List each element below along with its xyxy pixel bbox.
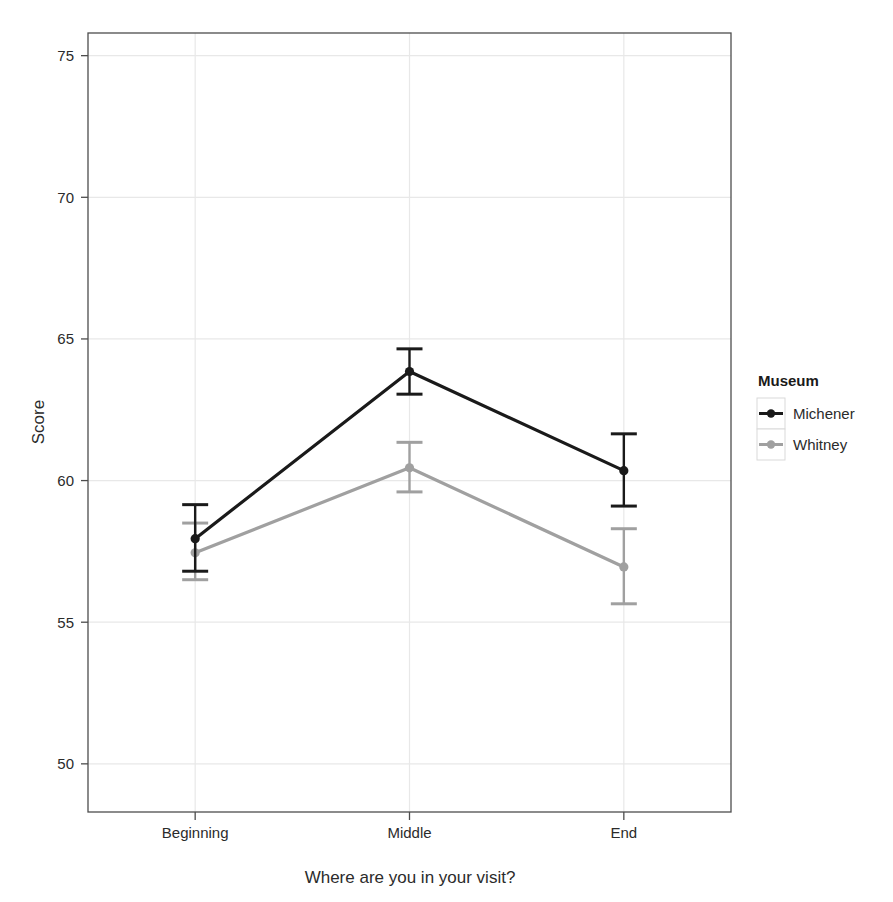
- y-axis: 505560657075: [57, 47, 88, 772]
- legend-items: MichenerWhitney: [757, 398, 855, 460]
- x-tick-label: Beginning: [162, 824, 229, 841]
- legend-title: Museum: [758, 372, 819, 389]
- x-tick-label: End: [610, 824, 637, 841]
- y-axis-title: Score: [29, 400, 48, 444]
- legend: Museum MichenerWhitney: [757, 372, 855, 460]
- legend-key-marker: [767, 440, 775, 448]
- x-axis-title: Where are you in your visit?: [305, 868, 516, 887]
- data-point-marker: [619, 466, 628, 475]
- legend-item-label: Michener: [793, 405, 855, 422]
- legend-item-label: Whitney: [793, 436, 848, 453]
- y-tick-label: 70: [57, 189, 74, 206]
- x-tick-label: Middle: [387, 824, 431, 841]
- y-tick-label: 50: [57, 755, 74, 772]
- x-axis: BeginningMiddleEnd: [162, 812, 637, 841]
- chart-figure: 505560657075 BeginningMiddleEnd Score Wh…: [0, 0, 893, 902]
- y-tick-label: 75: [57, 47, 74, 64]
- chart-svg: 505560657075 BeginningMiddleEnd Score Wh…: [0, 0, 893, 902]
- data-point-marker: [619, 562, 628, 571]
- data-point-marker: [405, 463, 414, 472]
- data-point-marker: [191, 534, 200, 543]
- data-point-marker: [405, 367, 414, 376]
- y-tick-label: 60: [57, 472, 74, 489]
- y-tick-label: 55: [57, 614, 74, 631]
- y-tick-label: 65: [57, 330, 74, 347]
- legend-key-marker: [767, 409, 775, 417]
